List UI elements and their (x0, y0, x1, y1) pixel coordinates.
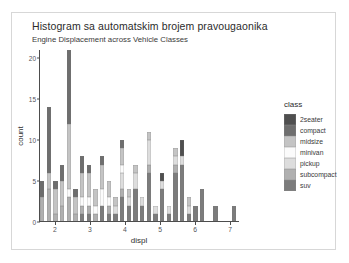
x-tick-mark (160, 222, 161, 225)
x-tick-mark (90, 222, 91, 225)
bar-segment-midsize (80, 173, 84, 198)
bar-segment-pickup (180, 156, 184, 164)
x-axis-line (39, 221, 239, 222)
legend-item-label: pickup (300, 160, 320, 167)
bar-segment-subcompact (67, 197, 71, 222)
histogram-bar (187, 197, 191, 222)
bar-segment-pickup (160, 181, 164, 189)
bar-segment-compact (60, 165, 64, 181)
legend-item-midsize[interactable]: midsize (274, 136, 349, 147)
bar-segment-compact (40, 181, 44, 197)
bar-segment-suv (133, 189, 137, 222)
bar-segment-compact (100, 156, 104, 164)
legend-item-label: midsize (300, 138, 323, 145)
bar-segment-subcompact (173, 165, 177, 173)
x-tick-mark (125, 222, 126, 225)
bar-segment-midsize (187, 197, 191, 205)
bar-segment-midsize (127, 189, 131, 197)
bar-segment-midsize (120, 148, 124, 164)
legend-item-label: suv (300, 182, 311, 189)
bar-segment-midsize (47, 173, 51, 189)
legend-items: 2seatercompactmidsizeminivanpickupsubcom… (274, 114, 349, 191)
bar-segment-compact (53, 181, 57, 189)
bar-segment-subcompact (147, 165, 151, 173)
bar-segment-suv (120, 197, 124, 222)
bar-segment-pickup (133, 173, 137, 189)
histogram-bar (200, 189, 204, 222)
y-tick-mark (37, 99, 40, 100)
bar-segment-compact (47, 107, 51, 173)
bar-segment-subcompact (40, 197, 44, 222)
legend-item-label: minivan (300, 149, 323, 156)
histogram-bar (107, 181, 111, 222)
bar-segment-midsize (173, 148, 177, 156)
y-tick-label: 15 (29, 96, 36, 103)
bar-segment-pickup (167, 206, 171, 214)
bar-segment-suv (147, 173, 151, 222)
histogram-bar (167, 206, 171, 222)
bar-segment-compact (87, 165, 91, 173)
histogram-bar (140, 197, 144, 222)
bar-segment-suv (100, 206, 104, 222)
x-tick-mark (55, 222, 56, 225)
bar-segment-midsize (60, 181, 64, 206)
chart-card: Histogram sa automatskim brojem pravouga… (11, 12, 336, 250)
bar-segment-subcompact (87, 206, 91, 214)
histogram-bar (60, 165, 64, 222)
bar-segment-subcompact (60, 206, 64, 222)
bar-segment-subcompact (107, 206, 111, 214)
bar-segment-pickup (173, 156, 177, 164)
y-tick-mark (37, 58, 40, 59)
bar-segment-suv (127, 206, 131, 222)
histogram-bar (153, 206, 157, 222)
bar-segment-suv (173, 173, 177, 222)
bar-segment-minivan (80, 197, 84, 205)
y-axis-line (39, 50, 40, 222)
bar-segment-midsize (133, 165, 137, 173)
x-tick-label: 3 (88, 226, 92, 233)
histogram-bar (87, 165, 91, 222)
bar-segment-midsize (73, 197, 77, 213)
legend-item-label: subcompact (300, 171, 337, 178)
bar-segment-suv (200, 189, 204, 222)
legend-title: class (284, 100, 349, 109)
bar-segment-pickup (187, 206, 191, 214)
legend-item-minivan[interactable]: minivan (274, 147, 349, 158)
y-tick-label: 20 (29, 55, 36, 62)
y-tick-label: 10 (29, 137, 36, 144)
bar-segment-pickup (113, 206, 117, 214)
y-tick-mark (37, 222, 40, 223)
bar-segment-compact (120, 140, 124, 148)
bar-segment-minivan (93, 206, 97, 214)
x-tick-mark (230, 222, 231, 225)
x-tick-label: 5 (158, 226, 162, 233)
legend-swatch-icon (284, 158, 296, 169)
legend-item-pickup[interactable]: pickup (274, 158, 349, 169)
bar-segment-compact (67, 50, 71, 124)
histogram-bar (47, 107, 51, 222)
histogram-bar (80, 156, 84, 222)
x-tick-label: 7 (228, 226, 232, 233)
y-tick-label: 5 (32, 178, 36, 185)
bar-segment-subcompact (47, 189, 51, 222)
bar-segment-subcompact (120, 189, 124, 197)
legend-item-compact[interactable]: compact (274, 125, 349, 136)
histogram-bar (100, 156, 104, 222)
bar-segment-midsize (67, 124, 71, 190)
x-tick-label: 2 (53, 226, 57, 233)
bar-segment-midsize (113, 197, 117, 205)
bar-segment-minivan (107, 197, 111, 205)
legend-item-2seater[interactable]: 2seater (274, 114, 349, 125)
histogram-bar (93, 189, 97, 222)
legend-swatch-icon (284, 136, 296, 147)
bar-segment-midsize (93, 189, 97, 205)
legend-item-subcompact[interactable]: subcompact (274, 169, 349, 180)
x-tick-label: 4 (123, 226, 127, 233)
bar-segment-midsize (107, 181, 111, 197)
histogram-bar (53, 181, 57, 222)
bar-segment-minivan (100, 189, 104, 205)
histogram-bar (147, 132, 151, 222)
plot-panel (39, 50, 239, 222)
y-tick-label: 0 (32, 219, 36, 226)
legend-item-suv[interactable]: suv (274, 180, 349, 191)
